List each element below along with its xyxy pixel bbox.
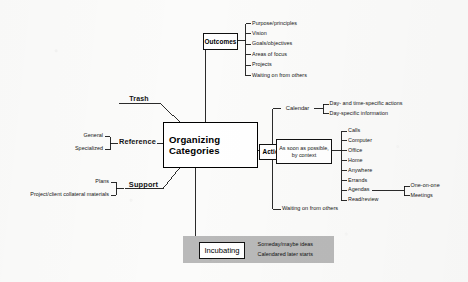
asap-line2: by context — [292, 152, 317, 158]
leaf-context-7-agendas[interactable]: Agendas — [348, 187, 370, 193]
leaf-support-1: Plans — [40, 179, 109, 185]
edge-trash-to-center — [160, 104, 180, 123]
leaf-context-1: Calls — [348, 128, 360, 134]
leaf-context-6: Errands — [348, 178, 367, 184]
leaf-incubating-1: Someday/maybe ideas — [258, 242, 314, 248]
leaf-reference-2: Specialized — [55, 146, 103, 152]
branch-label-reference[interactable]: Reference — [118, 138, 157, 146]
leaf-context-4: Home — [348, 158, 363, 164]
mindmap-page: Organizing Categories Outcomes Purpose/p… — [0, 0, 468, 282]
leaf-outcomes-2: Vision — [252, 31, 267, 37]
group-label-calendar[interactable]: Calendar — [281, 105, 314, 111]
leaf-context-3: Office — [348, 148, 362, 154]
leaf-outcomes-1: Purpose/principles — [252, 21, 297, 27]
branch-label-incubating[interactable]: Incubating — [199, 242, 245, 259]
center-title-line2: Categories — [169, 145, 220, 156]
leaf-agendas-1: One-on-one — [411, 183, 440, 189]
leaf-context-2: Computer — [348, 138, 372, 144]
branch-label-support[interactable]: Support — [125, 181, 162, 189]
leaf-incubating-2: Calendared later starts — [258, 252, 313, 258]
leaf-context-8: Read/review — [348, 197, 378, 203]
edge-support-to-center — [163, 166, 181, 189]
leaf-outcomes-5: Projects — [252, 62, 272, 68]
leaf-calendar-1: Day- and time-specific actions — [330, 101, 403, 107]
leaf-outcomes-3: Goals/objectives — [252, 41, 292, 47]
leaf-context-5: Anywhere — [348, 168, 372, 174]
center-node-organizing-categories[interactable]: Organizing Categories — [163, 122, 258, 168]
branch-label-trash[interactable]: Trash — [119, 95, 159, 102]
leaf-calendar-2: Day-specific information — [330, 111, 388, 117]
group-label-asap-by-context[interactable]: As soon as possible, by context — [276, 139, 332, 164]
leaf-agendas-2: Meetings — [411, 193, 433, 199]
leaf-reference-1: General — [55, 133, 103, 139]
leaf-support-2: Project/client collateral materials — [6, 192, 109, 198]
branch-label-outcomes[interactable]: Outcomes — [203, 33, 238, 50]
center-title-line1: Organizing — [169, 134, 220, 145]
leaf-outcomes-4: Areas of focus — [252, 52, 287, 58]
group-label-waiting-on-from-others: Waiting on from others — [282, 206, 338, 212]
leaf-outcomes-6: Waiting on from others — [252, 73, 307, 79]
